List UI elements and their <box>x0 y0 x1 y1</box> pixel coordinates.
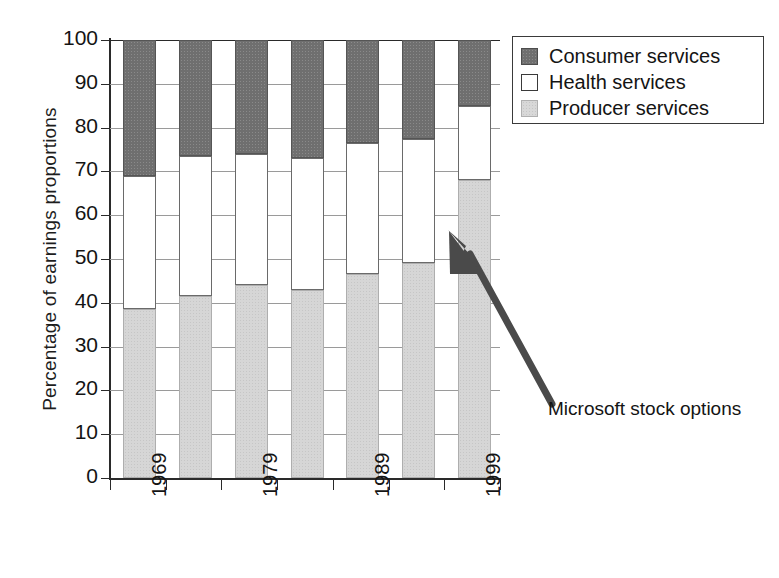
legend: Consumer servicesHealth servicesProducer… <box>512 36 764 124</box>
bar-segment-producer <box>235 285 268 478</box>
x-tick <box>110 479 111 490</box>
bar-1989 <box>346 40 379 478</box>
bar-segment-health <box>458 106 491 180</box>
stacked-bar-chart: Percentage of earnings proportions 10090… <box>0 0 779 578</box>
y-tick-label: 10 <box>46 420 98 444</box>
bar-segment-consumer <box>346 40 379 143</box>
legend-label: Health services <box>549 71 686 94</box>
bar-1994 <box>402 40 435 478</box>
bar-segment-producer <box>291 290 324 478</box>
y-tick-label: 70 <box>46 157 98 181</box>
bar-1974 <box>179 40 212 478</box>
y-tick-label: 100 <box>46 26 98 50</box>
x-tick-label: 1969 <box>148 453 171 498</box>
y-tick-label: 90 <box>46 70 98 94</box>
legend-label: Consumer services <box>549 45 720 68</box>
bar-segment-consumer <box>179 40 212 156</box>
bar-segment-health <box>402 139 435 264</box>
y-tick-label: 40 <box>46 289 98 313</box>
bar-segment-health <box>346 143 379 274</box>
consumer-swatch-icon <box>521 48 538 65</box>
bar-1969 <box>123 40 156 478</box>
y-tick-label: 80 <box>46 114 98 138</box>
producer-swatch-icon <box>521 100 538 117</box>
health-swatch-icon <box>521 74 538 91</box>
bar-1984 <box>291 40 324 478</box>
x-tick <box>444 479 445 490</box>
y-tick-label: 20 <box>46 376 98 400</box>
x-tick-label: 1979 <box>259 453 282 498</box>
bar-segment-consumer <box>235 40 268 154</box>
x-tick <box>333 479 334 490</box>
x-tick-label: 1999 <box>482 453 505 498</box>
bar-segment-producer <box>179 296 212 478</box>
x-tick-label: 1989 <box>371 453 394 498</box>
bar-segment-consumer <box>402 40 435 139</box>
bar-segment-producer <box>402 263 435 478</box>
y-tick-label: 30 <box>46 333 98 357</box>
bar-segment-consumer <box>123 40 156 176</box>
legend-item-producer: Producer services <box>521 95 755 121</box>
bar-segment-producer <box>346 274 379 478</box>
bar-segment-health <box>291 158 324 289</box>
y-tick-label: 60 <box>46 201 98 225</box>
legend-item-health: Health services <box>521 69 755 95</box>
bar-segment-consumer <box>458 40 491 106</box>
bar-segment-consumer <box>291 40 324 158</box>
annotation-label: Microsoft stock options <box>548 398 741 420</box>
bar-segment-health <box>235 154 268 285</box>
x-tick <box>221 479 222 490</box>
legend-label: Producer services <box>549 97 709 120</box>
y-tick-label: 0 <box>46 464 98 488</box>
bar-segment-health <box>123 176 156 310</box>
bar-segment-health <box>179 156 212 296</box>
bar-1979 <box>235 40 268 478</box>
y-tick-label: 50 <box>46 245 98 269</box>
annotation-arrow-icon <box>440 228 570 418</box>
legend-item-consumer: Consumer services <box>521 43 755 69</box>
